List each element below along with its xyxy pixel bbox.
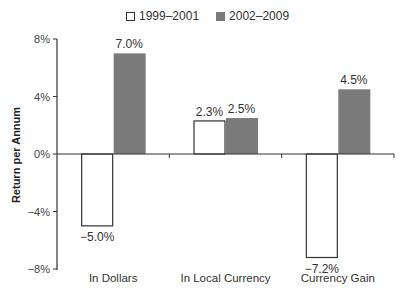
y-tick-label: 0% [34, 148, 50, 160]
bar-value-label: 2.5% [228, 102, 256, 116]
y-tick-label: 8% [34, 33, 50, 45]
bar-1-2 [338, 89, 370, 154]
y-tick-label: 4% [34, 91, 50, 103]
category-label: In Local Currency [180, 272, 270, 284]
bar-value-label: 7.0% [115, 37, 143, 51]
bar-1-0 [114, 53, 146, 154]
bar-0-1 [194, 121, 225, 154]
bar-1-1 [226, 118, 258, 154]
category-label: Currency Gain [301, 272, 375, 284]
category-label: In Dollars [89, 272, 138, 284]
bar-0-2 [306, 154, 337, 258]
bar-value-label: 4.5% [340, 73, 368, 87]
bar-value-label: 2.3% [196, 105, 224, 119]
bar-0-0 [82, 154, 113, 226]
bar-chart: −5.0%7.0%In Dollars2.3%2.5%In Local Curr… [0, 0, 405, 297]
y-tick-label: −8% [28, 263, 51, 275]
y-tick-label: −4% [28, 206, 51, 218]
bar-value-label: −5.0% [80, 230, 115, 244]
